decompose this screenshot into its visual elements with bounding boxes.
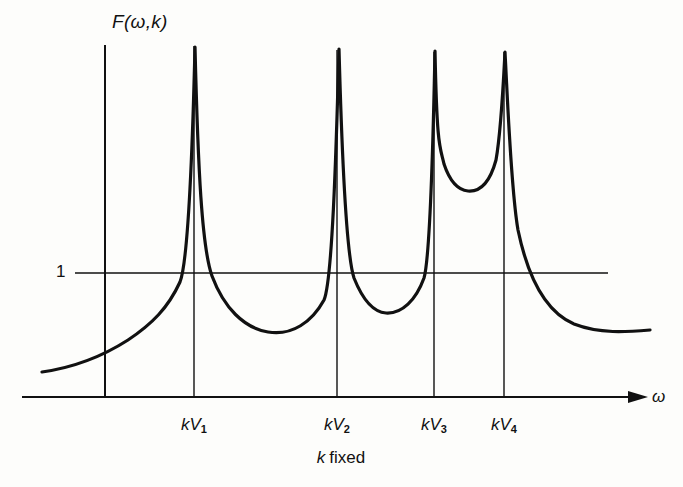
response-curve bbox=[42, 47, 650, 372]
x-tick-label-kv4: kV4 bbox=[491, 415, 517, 435]
x-axis-arrow-icon bbox=[628, 391, 648, 403]
reference-level-label: 1 bbox=[56, 263, 65, 280]
caption-symbol: k bbox=[317, 448, 326, 467]
caption-text: fixed bbox=[329, 448, 365, 467]
x-axis-label: ω bbox=[652, 388, 665, 405]
figure-container: F(ω,k) 1 ω kV1 kV2 kV3 kV4 kfixed bbox=[0, 0, 683, 487]
x-tick-label-kv2: kV2 bbox=[324, 415, 350, 435]
x-tick-label-kv3: kV3 bbox=[421, 415, 447, 435]
y-axis-label: F(ω,k) bbox=[112, 12, 168, 31]
x-tick-label-kv1: kV1 bbox=[181, 415, 207, 435]
figure-canvas bbox=[0, 0, 683, 487]
figure-caption: kfixed bbox=[317, 448, 365, 468]
